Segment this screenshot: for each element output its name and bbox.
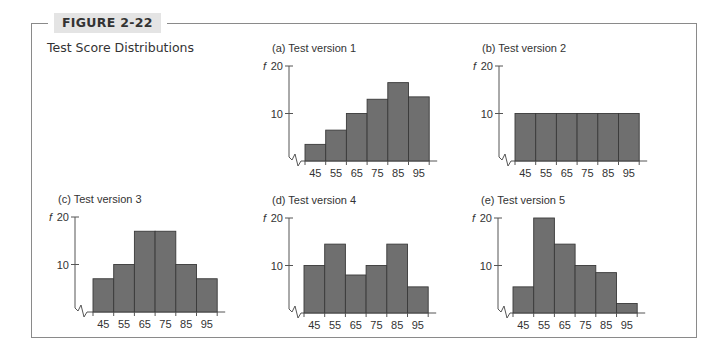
histogram-bar xyxy=(575,266,596,314)
axis-break-icon xyxy=(75,305,93,317)
histogram-bar xyxy=(554,244,575,313)
y-tick-label: 10 xyxy=(271,260,283,272)
x-tick-label: 75 xyxy=(370,319,382,331)
x-tick-label: 95 xyxy=(412,319,424,331)
y-tick-label: 10 xyxy=(57,259,69,271)
y-tick-label: 20 xyxy=(481,60,493,72)
y-tick-label: 20 xyxy=(480,212,492,224)
x-tick-label: 55 xyxy=(118,318,130,330)
y-axis-label: f xyxy=(472,212,476,224)
y-tick-label: 20 xyxy=(271,212,283,224)
x-tick-label: 85 xyxy=(180,318,192,330)
x-tick-label: 65 xyxy=(561,167,573,179)
x-tick-label: 85 xyxy=(391,319,403,331)
histogram-bar xyxy=(536,114,557,162)
x-tick-label: 65 xyxy=(351,167,363,179)
x-tick-label: 95 xyxy=(201,318,213,330)
y-axis-label: f xyxy=(263,212,267,224)
y-tick-label: 10 xyxy=(271,108,283,120)
x-tick-label: 95 xyxy=(621,319,633,331)
histogram-bar xyxy=(155,231,176,312)
x-tick-label: 55 xyxy=(538,319,550,331)
histogram-bar xyxy=(134,231,155,312)
x-tick-label: 65 xyxy=(139,318,151,330)
axis-break-icon xyxy=(289,306,304,318)
histogram-bar xyxy=(305,144,326,161)
chart-title: (a) Test version 1 xyxy=(272,42,356,54)
histogram-bar xyxy=(515,114,536,162)
histogram-bar xyxy=(325,244,346,313)
histogram-bar xyxy=(387,244,408,313)
x-tick-label: 95 xyxy=(413,167,425,179)
axis-break-icon xyxy=(498,306,513,318)
chart-title: (e) Test version 5 xyxy=(481,194,565,206)
x-tick-label: 45 xyxy=(309,167,321,179)
y-axis-label: f xyxy=(263,60,267,72)
x-tick-label: 75 xyxy=(581,167,593,179)
chart-title: (b) Test version 2 xyxy=(482,42,566,54)
x-tick-label: 65 xyxy=(350,319,362,331)
histogram-bar xyxy=(534,218,555,313)
histogram-bar xyxy=(367,99,388,161)
x-tick-label: 85 xyxy=(602,167,614,179)
x-tick-label: 45 xyxy=(517,319,529,331)
histogram-bar xyxy=(617,304,638,314)
histogram-bar xyxy=(345,275,366,313)
histogram-bar xyxy=(388,83,409,161)
histogram-bar xyxy=(556,114,577,162)
charts-canvas: (a) Test version 1f1020455565758595 (b) … xyxy=(0,0,721,354)
x-tick-label: 45 xyxy=(97,318,109,330)
histogram-bar xyxy=(176,265,197,313)
x-tick-label: 75 xyxy=(159,318,171,330)
x-tick-label: 95 xyxy=(623,167,635,179)
x-tick-label: 55 xyxy=(540,167,552,179)
x-tick-label: 55 xyxy=(329,319,341,331)
chart-a: (a) Test version 1f1020455565758595 xyxy=(263,42,437,179)
y-tick-label: 10 xyxy=(480,260,492,272)
histogram-bar xyxy=(197,279,218,312)
histogram-bar xyxy=(408,287,429,313)
y-axis-label: f xyxy=(473,60,477,72)
histogram-bar xyxy=(409,97,430,161)
histogram-bar xyxy=(619,114,640,162)
histogram-bar xyxy=(598,114,619,162)
y-tick-label: 20 xyxy=(271,60,283,72)
histogram-bar xyxy=(513,287,534,313)
histogram-bar xyxy=(326,130,347,161)
chart-b: (b) Test version 2f1020455565758595 xyxy=(473,42,647,179)
chart-d: (d) Test version 4f1020455565758595 xyxy=(263,194,436,331)
x-tick-label: 75 xyxy=(371,167,383,179)
x-tick-label: 45 xyxy=(308,319,320,331)
histogram-bar xyxy=(596,273,617,313)
y-tick-label: 20 xyxy=(57,211,69,223)
histogram-bar xyxy=(304,266,325,314)
axis-break-icon xyxy=(499,154,515,166)
y-axis-label: f xyxy=(49,211,53,223)
axis-break-icon xyxy=(289,154,305,166)
chart-c: (c) Test version 3f1020455565758595 xyxy=(49,193,225,330)
histogram-bar xyxy=(93,279,114,312)
y-tick-label: 10 xyxy=(481,108,493,120)
chart-title: (c) Test version 3 xyxy=(58,193,142,205)
x-tick-label: 85 xyxy=(392,167,404,179)
histogram-bar xyxy=(577,114,598,162)
x-tick-label: 55 xyxy=(330,167,342,179)
chart-title: (d) Test version 4 xyxy=(272,194,356,206)
chart-e: (e) Test version 5f1020455565758595 xyxy=(472,194,645,331)
x-tick-label: 85 xyxy=(600,319,612,331)
x-tick-label: 45 xyxy=(519,167,531,179)
histogram-bar xyxy=(346,114,367,162)
x-tick-label: 75 xyxy=(579,319,591,331)
histogram-bar xyxy=(114,265,135,313)
histogram-bar xyxy=(366,266,387,314)
x-tick-label: 65 xyxy=(559,319,571,331)
